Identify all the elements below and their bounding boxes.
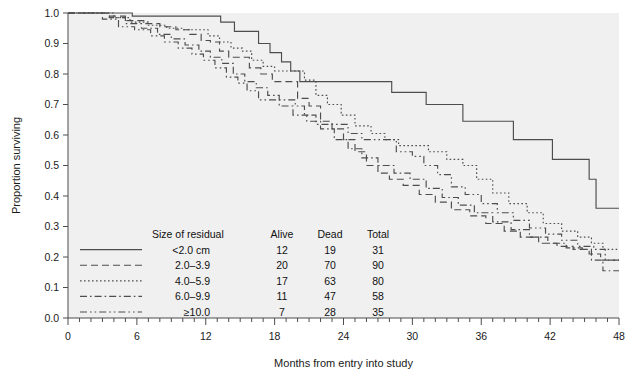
y-tick-label: 0.4 bbox=[44, 190, 59, 202]
x-tick-label: 18 bbox=[269, 330, 281, 342]
legend-header-total: Total bbox=[367, 228, 389, 240]
legend-header-dead: Dead bbox=[317, 228, 342, 240]
y-tick-label: 0.5 bbox=[44, 159, 59, 171]
legend-row-total: 31 bbox=[372, 244, 384, 256]
legend-row-total: 35 bbox=[372, 306, 384, 318]
plot-background bbox=[68, 13, 619, 318]
legend-header-size: Size of residual bbox=[152, 228, 224, 240]
y-tick-label: 0.6 bbox=[44, 129, 59, 141]
legend-header-alive: Alive bbox=[271, 228, 294, 240]
legend-row-dead: 70 bbox=[324, 259, 336, 271]
legend-row-total: 80 bbox=[372, 275, 384, 287]
legend-row-dead: 28 bbox=[324, 306, 336, 318]
x-tick-label: 30 bbox=[407, 330, 419, 342]
x-tick-label: 24 bbox=[338, 330, 350, 342]
y-tick-label: 1.0 bbox=[44, 7, 59, 19]
x-tick-label: 0 bbox=[65, 330, 71, 342]
kaplan-meier-chart: 0.00.10.20.30.40.50.60.70.80.91.00612182… bbox=[0, 0, 633, 375]
legend-row-dead: 19 bbox=[324, 244, 336, 256]
y-tick-label: 0.9 bbox=[44, 37, 59, 49]
y-tick-label: 0.8 bbox=[44, 68, 59, 80]
y-tick-label: 0.2 bbox=[44, 251, 59, 263]
legend-row-alive: 7 bbox=[279, 306, 285, 318]
x-tick-label: 42 bbox=[544, 330, 556, 342]
x-tick-label: 36 bbox=[475, 330, 487, 342]
legend-row-alive: 12 bbox=[276, 244, 288, 256]
legend-row-alive: 20 bbox=[276, 259, 288, 271]
x-tick-label: 48 bbox=[613, 330, 625, 342]
legend-row-label: 4.0–5.9 bbox=[175, 275, 210, 287]
x-tick-label: 12 bbox=[200, 330, 212, 342]
legend-row-alive: 11 bbox=[277, 290, 288, 302]
y-tick-label: 0.3 bbox=[44, 220, 59, 232]
legend-row-label: 6.0–9.9 bbox=[175, 290, 210, 302]
legend-row-total: 58 bbox=[372, 290, 384, 302]
legend-row-alive: 17 bbox=[276, 275, 288, 287]
y-tick-label: 0.0 bbox=[44, 312, 59, 324]
x-tick-label: 6 bbox=[134, 330, 140, 342]
legend-row-dead: 47 bbox=[324, 290, 336, 302]
legend-row-label: 2.0–3.9 bbox=[175, 259, 210, 271]
x-axis-title: Months from entry into study bbox=[274, 357, 413, 369]
survival-chart-figure: 0.00.10.20.30.40.50.60.70.80.91.00612182… bbox=[0, 0, 633, 375]
legend-row-label: <2.0 cm bbox=[172, 244, 210, 256]
legend-row-dead: 63 bbox=[324, 275, 336, 287]
legend-row-label: ≥10.0 bbox=[184, 306, 210, 318]
y-tick-label: 0.1 bbox=[44, 281, 59, 293]
legend-row-total: 90 bbox=[372, 259, 384, 271]
y-axis-title: Proportion surviving bbox=[10, 117, 22, 214]
y-tick-label: 0.7 bbox=[44, 98, 59, 110]
